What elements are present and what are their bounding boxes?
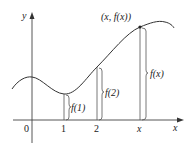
y-axis-arrow-icon	[30, 12, 35, 19]
tick-label-2: 2	[94, 123, 99, 134]
brace-fx	[142, 28, 148, 120]
x-axis-arrow-icon	[177, 118, 184, 123]
height-label-f2: f(2)	[105, 87, 120, 99]
x-axis-label: x	[172, 122, 178, 133]
tick-label-x: x	[136, 123, 142, 134]
height-label-f1: f(1)	[71, 102, 86, 114]
brace-f2	[99, 68, 104, 120]
tick-label-1: 1	[61, 123, 66, 134]
height-label-fx: f(x)	[150, 68, 165, 80]
origin-label: 0	[24, 123, 29, 134]
point-label: (x, f(x))	[101, 11, 132, 23]
point-x-fx	[138, 25, 141, 28]
y-axis-label: y	[21, 10, 27, 21]
function-curve	[12, 21, 174, 94]
function-graph-figure: y x 0 1 2 x (x, f(x)) f(1) f(2) f(x)	[0, 0, 191, 152]
